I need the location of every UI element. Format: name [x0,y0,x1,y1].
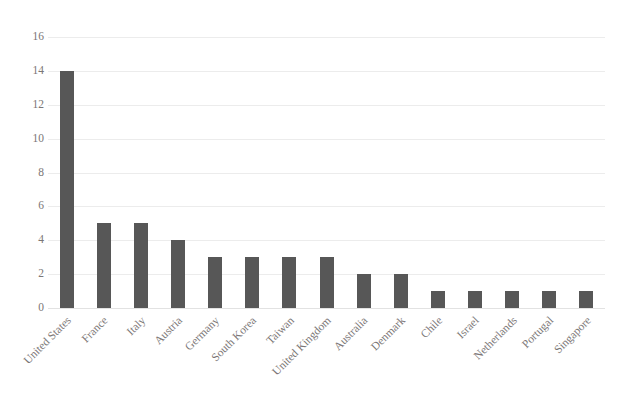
bar[interactable] [579,291,593,308]
y-tick-label: 6 [38,201,44,213]
y-tick-label: 8 [38,167,44,179]
bar[interactable] [394,274,408,308]
x-tick-label: United States [21,314,74,367]
y-tick-label: 12 [33,99,45,111]
x-tick-label: Taiwan [264,314,297,347]
x-tick-label: Chile [418,314,445,341]
chart-title [0,0,625,5]
x-tick-label: Austria [152,314,185,347]
gridline [48,308,605,309]
bar[interactable] [320,257,334,308]
bar[interactable] [431,291,445,308]
bar[interactable] [208,257,222,308]
x-tick-label: Denmark [369,314,408,353]
y-tick-label: 0 [38,302,44,314]
bar[interactable] [97,223,111,308]
x-tick-label: Italy [124,314,148,338]
bar-chart: 0246810121416 United StatesFranceItalyAu… [0,0,625,410]
bar[interactable] [134,223,148,308]
y-axis: 0246810121416 [0,37,44,308]
x-axis: United StatesFranceItalyAustriaGermanySo… [48,310,605,405]
bar[interactable] [542,291,556,308]
bar[interactable] [245,257,259,308]
x-tick-label: Israel [455,314,482,341]
x-tick-label: Australia [332,314,371,353]
y-tick-label: 4 [38,235,44,247]
x-tick-label: Portugal [520,314,557,351]
y-tick-label: 10 [33,133,45,145]
bar[interactable] [357,274,371,308]
bar[interactable] [171,240,185,308]
x-tick-label: France [80,314,111,345]
bar[interactable] [60,71,74,308]
bar[interactable] [282,257,296,308]
y-tick-label: 2 [38,268,44,280]
y-tick-label: 14 [33,65,45,77]
bar[interactable] [468,291,482,308]
bars-layer [48,37,605,308]
x-tick-label: Singapore [551,314,593,356]
y-tick-label: 16 [33,31,45,43]
bar[interactable] [505,291,519,308]
